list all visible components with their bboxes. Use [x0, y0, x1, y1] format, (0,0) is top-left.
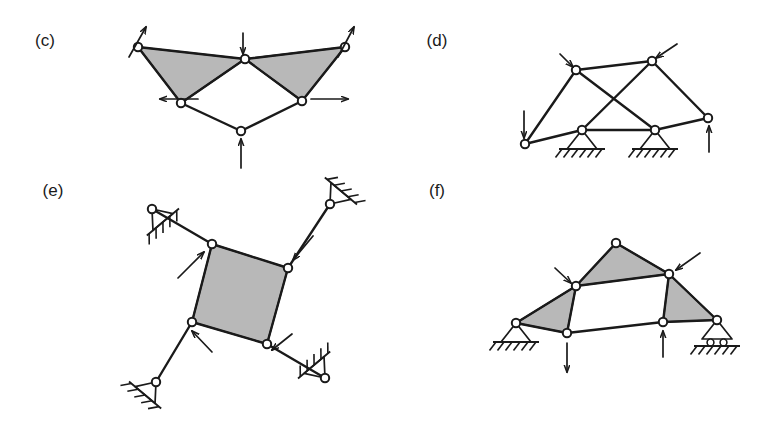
joint-f-upper-left [572, 282, 580, 290]
joint-f-left-base [512, 319, 520, 327]
joint-f-upper-right [665, 270, 673, 278]
panel-label-f: (f) [429, 181, 445, 200]
joint-e-anchor-top-left [148, 205, 156, 213]
joint-e-quad-top-left [208, 240, 216, 248]
joint-f-apex [612, 239, 620, 247]
joint-d-support-right [651, 126, 659, 134]
joint-d-support-left [578, 126, 586, 134]
joint-e-anchor-top-right [326, 200, 334, 208]
structural-diagram: (c)(d)(e)(f) [0, 0, 771, 433]
joint-c-apex [241, 55, 249, 63]
joint-e-quad-bottom-left [188, 318, 196, 326]
figure-sheet: (c)(d)(e)(f) [0, 0, 771, 433]
joint-d-lower-left [521, 140, 529, 148]
roller-wheel-0 [707, 339, 714, 346]
joint-d-upper-right [648, 57, 656, 65]
joint-f-lower-right [659, 318, 667, 326]
panel-label-d: (d) [427, 31, 448, 50]
joint-e-quad-top-right [284, 264, 292, 272]
joint-e-quad-bottom-right [263, 340, 271, 348]
joint-c-mid-right [298, 97, 306, 105]
joint-d-lower-right [704, 114, 712, 122]
joint-e-anchor-bottom-right [321, 374, 329, 382]
joint-e-anchor-bottom-left [152, 378, 160, 386]
joint-c-mid-left [177, 99, 185, 107]
joint-f-right-base [713, 316, 721, 324]
panel-label-c: (c) [35, 31, 55, 50]
joint-f-lower-left [563, 329, 571, 337]
panel-label-e: (e) [43, 181, 64, 200]
roller-wheel-1 [720, 339, 727, 346]
joint-c-bottom [237, 127, 245, 135]
